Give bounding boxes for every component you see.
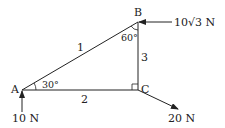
angle-label-b: 60° <box>121 32 138 43</box>
truss-diagram: A B C 1 2 3 30° 60° 10√3 N 10 N 20 N <box>0 0 225 128</box>
node-label-b: B <box>134 6 142 19</box>
node-label-c: C <box>141 83 149 96</box>
member-label-1: 1 <box>77 41 84 54</box>
force-label-a: 10 N <box>12 112 39 125</box>
right-angle-marker-c <box>132 84 138 90</box>
truss-svg: A B C 1 2 3 30° 60° 10√3 N 10 N 20 N <box>0 0 225 128</box>
member-label-3: 3 <box>141 51 148 64</box>
angle-arc-a <box>34 83 36 90</box>
force-label-b: 10√3 N <box>174 16 216 29</box>
angle-arc-b <box>131 26 138 30</box>
angle-label-a: 30° <box>42 79 59 90</box>
member-label-2: 2 <box>81 93 88 106</box>
node-label-a: A <box>10 83 20 96</box>
force-label-c: 20 N <box>168 112 195 125</box>
